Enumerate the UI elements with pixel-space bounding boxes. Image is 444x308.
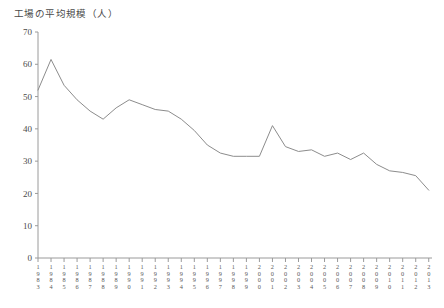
y-axis-tick-labels: 010203040506070: [23, 27, 33, 263]
y-axis-tick-label: 60: [23, 59, 33, 69]
y-axis-tick-label: 10: [23, 221, 33, 231]
x-axis-tick-marks: [38, 258, 429, 262]
y-axis-tick-label: 40: [23, 124, 33, 134]
y-axis-tick-label: 0: [28, 253, 33, 263]
y-axis-tick-label: 30: [23, 156, 33, 166]
y-axis-tick-label: 70: [23, 27, 33, 37]
y-axis-tick-label: 20: [23, 189, 33, 199]
line-chart-plot: 010203040506070: [0, 0, 444, 308]
y-axis-tick-label: 50: [23, 92, 33, 102]
data-series-line: [38, 59, 429, 190]
chart-container: 工場の平均規模（人） 010203040506070 1983198419851…: [0, 0, 444, 308]
